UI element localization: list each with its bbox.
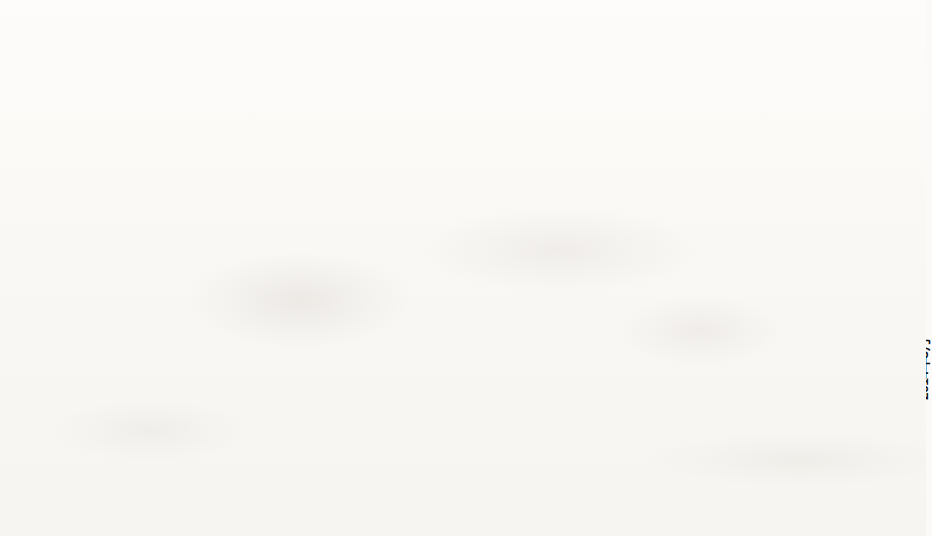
percent-symbol: % bbox=[34, 48, 48, 68]
chart-axes bbox=[80, 45, 910, 392]
y-tick-label: 15 bbox=[54, 176, 70, 193]
y-tick-label: 20 bbox=[54, 106, 70, 123]
data-series-line bbox=[94, 94, 906, 291]
figure-caption: 图 1 短期贷款 M2 货币供应量增速 bbox=[0, 516, 926, 536]
y-axis-ticks: 0510152025 bbox=[54, 37, 89, 401]
paren-bottom-decoration bbox=[29, 68, 61, 82]
y-tick-label: 10 bbox=[54, 245, 70, 262]
y-axis-unit-label: % bbox=[26, 36, 60, 82]
x-axis-ticks bbox=[94, 383, 906, 392]
y-tick-label: 0 bbox=[62, 384, 70, 401]
y-tick-label: 5 bbox=[62, 315, 70, 332]
